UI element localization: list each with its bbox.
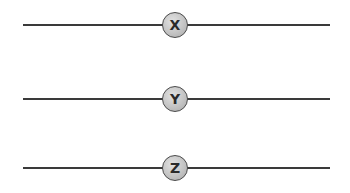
node-label-x: X bbox=[170, 18, 181, 32]
axis-row-z: Z bbox=[0, 153, 350, 183]
node-y: Y bbox=[162, 86, 188, 112]
axis-row-y: Y bbox=[0, 84, 350, 114]
node-x: X bbox=[162, 12, 188, 38]
node-z: Z bbox=[162, 155, 188, 181]
node-label-z: Z bbox=[170, 161, 180, 175]
node-label-y: Y bbox=[170, 92, 180, 106]
axis-row-x: X bbox=[0, 10, 350, 40]
